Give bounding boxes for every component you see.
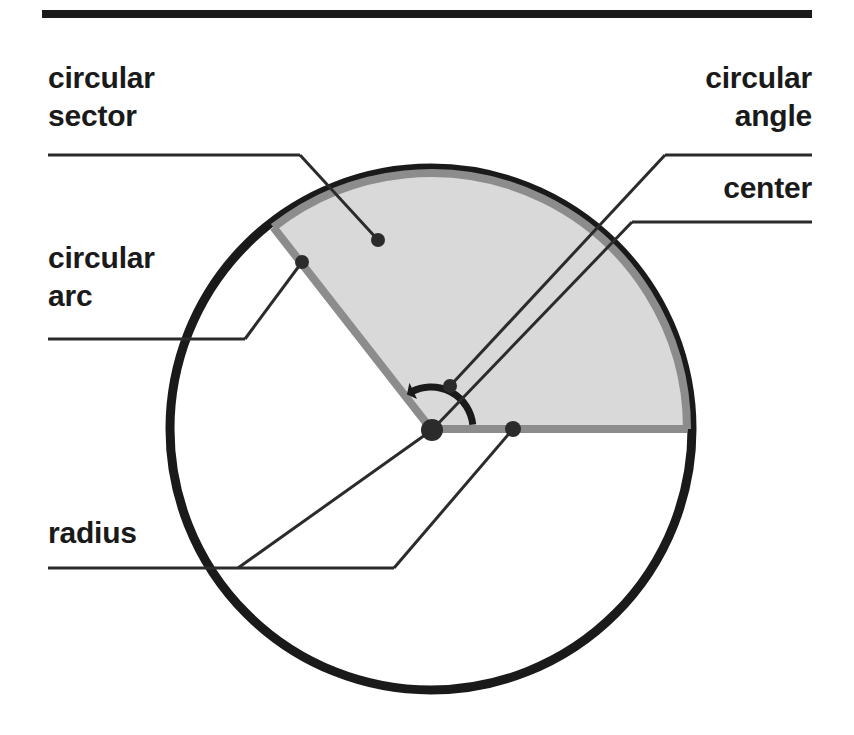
leader-dot-radius xyxy=(505,421,521,437)
label-circular-arc: circulararc xyxy=(48,241,155,312)
label-center: center xyxy=(723,171,812,204)
label-line: sector xyxy=(48,99,137,132)
label-line: angle xyxy=(735,99,812,132)
leader-line-circular-arc xyxy=(245,262,302,339)
leader-dot-circular-arc xyxy=(295,255,309,269)
label-line: circular xyxy=(48,241,155,274)
label-circular-sector: circularsector xyxy=(48,61,155,132)
leader-line-radius xyxy=(238,430,432,568)
circle-parts-diagram: circularsectorcirculararccircularanglece… xyxy=(0,0,854,735)
label-line: center xyxy=(723,171,812,204)
label-line: radius xyxy=(48,516,137,549)
label-line: arc xyxy=(48,279,92,312)
label-radius: radius xyxy=(48,516,137,549)
label-line: circular xyxy=(48,61,155,94)
leader-dot-circular-sector xyxy=(371,233,385,247)
label-line: circular xyxy=(705,61,812,94)
annotation-circular-arc: circulararc xyxy=(48,241,309,339)
leader-dot-circular-angle xyxy=(443,379,457,393)
leader-line-radius-2 xyxy=(394,429,513,568)
diagram-page: circularsectorcirculararccircularanglece… xyxy=(0,0,854,735)
annotation-radius: radius xyxy=(48,421,521,568)
label-circular-angle: circularangle xyxy=(705,61,812,132)
